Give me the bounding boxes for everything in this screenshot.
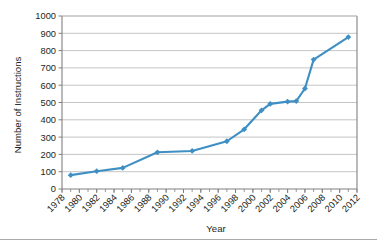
y-tick-label: 800 <box>40 46 56 56</box>
y-tick-label: 100 <box>40 167 56 177</box>
y-tick-label: 300 <box>40 133 56 143</box>
y-tick-label: 700 <box>40 63 56 73</box>
y-tick-label: 0 <box>51 184 56 194</box>
y-tick-label: 1000 <box>35 11 56 21</box>
y-axis-title: Number of Instructions <box>12 57 23 154</box>
y-tick-label: 600 <box>40 81 56 91</box>
x-axis-title: Year <box>206 223 226 234</box>
bottom-divider-rule <box>0 239 377 240</box>
chart-container: 01002003004005006007008009001000 1978198… <box>0 0 377 246</box>
y-tick-label: 200 <box>40 150 56 160</box>
y-tick-label: 500 <box>40 98 56 108</box>
top-edge-spacer <box>0 0 377 1</box>
line-chart: 01002003004005006007008009001000 1978198… <box>0 0 377 246</box>
y-tick-label: 400 <box>40 115 56 125</box>
y-tick-label: 900 <box>40 29 56 39</box>
